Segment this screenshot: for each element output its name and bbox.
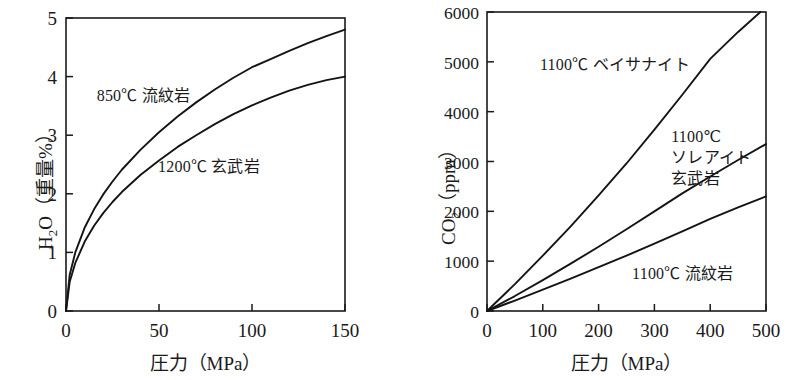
x-tick-label: 100 xyxy=(529,320,558,341)
chart-panel-co2: 0100200300400500010002000300040005000600… xyxy=(400,0,797,380)
annotation-1100c-basanite: 1100℃ ベイサナイト xyxy=(540,54,690,75)
y-tick-label: 5000 xyxy=(444,53,479,73)
y-tick-label: 0 xyxy=(470,302,479,322)
curve-3 xyxy=(487,196,766,311)
annotation-line-2: ソレアイト xyxy=(671,147,751,168)
y-axis-title-subscript: 2 xyxy=(45,230,60,237)
annotation-line-1: 1100℃ xyxy=(671,126,751,147)
y-tick-label: 6000 xyxy=(444,3,479,23)
chart-panel-h2o: 050100150012345 H2O（重量%） 圧力（MPa） 850℃ 流紋… xyxy=(0,0,400,380)
annotation-line-3: 玄武岩 xyxy=(671,168,751,189)
y-axis-title-subscript: 2 xyxy=(448,212,463,219)
y-axis-title-suffix: （ppm） xyxy=(438,140,459,212)
y-tick-label: 1000 xyxy=(444,252,479,272)
x-axis-title-co2: 圧力（MPa） xyxy=(487,348,766,375)
y-axis-title-prefix: H xyxy=(35,236,56,250)
annotation-1100c-tholeiite-basalt: 1100℃ ソレアイト 玄武岩 xyxy=(671,126,751,189)
y-axis-title-suffix: O（重量%） xyxy=(35,124,56,230)
annotation-1100c-rhyolite: 1100℃ 流紋岩 xyxy=(632,263,733,284)
y-axis-title-prefix: CO xyxy=(438,219,459,245)
x-tick-label: 0 xyxy=(482,320,492,341)
y-axis-title-h2o: H2O（重量%） xyxy=(30,124,61,250)
x-tick-label: 300 xyxy=(640,320,669,341)
y-tick-label: 0 xyxy=(48,301,58,322)
y-tick-label: 4000 xyxy=(444,103,479,123)
annotation-1200c-basalt: 1200℃ 玄武岩 xyxy=(158,156,260,177)
x-tick-label: 200 xyxy=(584,320,613,341)
x-tick-label: 100 xyxy=(238,320,267,341)
y-axis-title-co2: CO2（ppm） xyxy=(433,140,464,245)
x-tick-label: 50 xyxy=(150,320,169,341)
x-tick-label: 150 xyxy=(331,320,360,341)
x-tick-label: 0 xyxy=(61,320,71,341)
x-tick-label: 500 xyxy=(752,320,781,341)
y-tick-label: 4 xyxy=(48,67,58,88)
x-tick-label: 400 xyxy=(696,320,725,341)
figure-container: 050100150012345 H2O（重量%） 圧力（MPa） 850℃ 流紋… xyxy=(0,0,797,380)
y-tick-label: 5 xyxy=(48,8,58,29)
annotation-850c-rhyolite: 850℃ 流紋岩 xyxy=(97,85,191,106)
curve-2 xyxy=(66,77,345,311)
x-axis-title-h2o: 圧力（MPa） xyxy=(66,348,345,375)
